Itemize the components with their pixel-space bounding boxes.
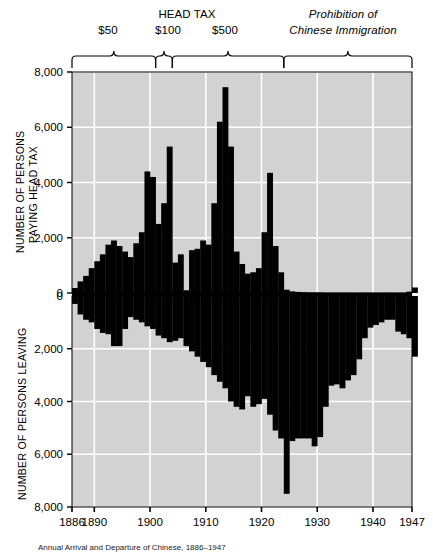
period-bracket-3 [284, 51, 412, 68]
xtick-1940: 1940 [360, 516, 386, 528]
xtick-1910: 1910 [193, 516, 219, 528]
departure-ytick-6000: 6,000 [34, 448, 63, 460]
arrival-ytick-4000: 4,000 [34, 177, 63, 189]
period-bracket-2 [172, 51, 283, 68]
departure-ytick-4000: 4,000 [34, 396, 63, 408]
xtick-1920: 1920 [249, 516, 275, 528]
departure-ytick-8000: 8,000 [34, 501, 63, 513]
xtick-1930: 1930 [304, 516, 330, 528]
period-bracket-0 [72, 51, 156, 68]
xtick-1947: 1947 [399, 516, 425, 528]
arrival-ytick-8000: 8,000 [34, 66, 63, 78]
departure-ytick-0: 0 [57, 290, 63, 302]
period-bracket-1 [156, 51, 173, 68]
departure-ytick-2000: 2,000 [34, 343, 63, 355]
xtick-1890: 1890 [81, 516, 107, 528]
arrival-ytick-2000: 2,000 [34, 232, 63, 244]
xtick-1900: 1900 [137, 516, 163, 528]
arrival-ytick-6000: 6,000 [34, 121, 63, 133]
